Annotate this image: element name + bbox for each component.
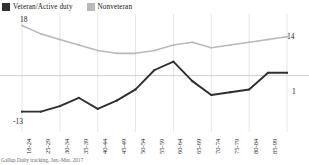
- x-tick-label: 35-39: [82, 139, 89, 154]
- x-axis-tick-labels: 18-2425-2930-3435-3940-4445-4950-5455-59…: [0, 131, 309, 155]
- x-tick-label: 80-84: [252, 139, 259, 154]
- x-tick-label: 85-99: [271, 139, 278, 154]
- legend-item-nonveteran: Nonveteran: [87, 3, 133, 11]
- chart-legend: Veteran/Active duty Nonveteran: [2, 1, 132, 13]
- x-tick-label: 40-44: [101, 139, 108, 154]
- legend-label-veteran-active-duty: Veteran/Active duty: [13, 3, 73, 11]
- chart-container: Veteran/Active duty Nonveteran 18 14 -13…: [0, 0, 309, 165]
- plot-area: [0, 14, 309, 132]
- value-label-veteran-end: 1: [292, 88, 296, 96]
- x-tick-label: 70-74: [214, 139, 221, 154]
- value-label-nonveteran-start: 18: [20, 16, 28, 24]
- x-tick-label: 65-69: [195, 139, 202, 154]
- legend-label-nonveteran: Nonveteran: [98, 3, 133, 11]
- gridlines: [22, 14, 287, 132]
- chart-footnote: Gallup Daily tracking, Jan.-Mar. 2017: [1, 157, 308, 164]
- x-tick-label: 18-24: [25, 139, 32, 154]
- series-line-nonveteran: [22, 26, 287, 54]
- x-tick-label: 55-59: [158, 139, 165, 154]
- x-tick-label: 25-29: [44, 139, 51, 154]
- x-tick-label: 60-64: [176, 139, 183, 154]
- legend-swatch-veteran-active-duty: [2, 3, 10, 11]
- value-label-nonveteran-end: 14: [287, 33, 295, 41]
- legend-swatch-nonveteran: [87, 3, 95, 11]
- x-tick-label: 75-79: [233, 139, 240, 154]
- x-tick-label: 45-49: [120, 139, 127, 154]
- legend-item-veteran-active-duty: Veteran/Active duty: [2, 3, 73, 11]
- x-tick-label: 50-54: [139, 139, 146, 154]
- chart-svg: [0, 14, 309, 132]
- x-tick-label: 30-34: [63, 139, 70, 154]
- value-label-veteran-start: -13: [13, 118, 23, 126]
